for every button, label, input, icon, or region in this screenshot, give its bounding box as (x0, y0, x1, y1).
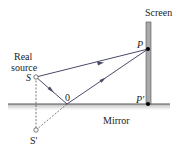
image-source-label: S' (30, 136, 37, 146)
image-source-point (34, 128, 38, 132)
screen-label: Screen (145, 8, 172, 18)
direct-ray (36, 49, 148, 77)
point-p-prime-dot (146, 102, 150, 106)
screen (146, 22, 151, 104)
ray-arrowheads (48, 62, 107, 93)
real-source-label-line2: source (11, 63, 37, 73)
source-point (34, 75, 38, 79)
arrow-icon (100, 78, 107, 83)
arrow-icon (97, 62, 104, 66)
light-rays (36, 49, 148, 104)
mirror-label: Mirror (103, 116, 130, 126)
point-o-label: 0 (65, 93, 70, 103)
point-p-dot (146, 47, 150, 51)
mirror (8, 104, 170, 110)
real-source-label-line1: Real (14, 52, 32, 62)
point-p-prime-label: P' (136, 95, 144, 105)
source-label: S (26, 73, 31, 83)
point-p-label: P (137, 40, 143, 50)
